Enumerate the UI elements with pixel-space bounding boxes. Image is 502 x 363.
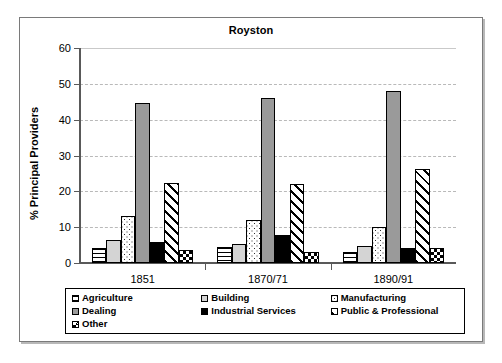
- y-tick-label: 40: [59, 114, 71, 126]
- bar: [121, 216, 136, 263]
- y-tick-label: 0: [65, 257, 71, 269]
- bar: [179, 250, 194, 263]
- bar: [92, 248, 107, 263]
- legend-swatch-icon: [331, 295, 338, 302]
- legend-item[interactable]: Manufacturing: [331, 292, 460, 304]
- y-axis-title: % Principal Providers: [28, 68, 44, 258]
- bar: [164, 183, 179, 263]
- legend-item-label: Public & Professional: [341, 305, 439, 317]
- legend-item-label: Manufacturing: [341, 292, 406, 304]
- bar: [290, 184, 305, 263]
- bar: [135, 103, 150, 263]
- legend-swatch-icon: [72, 308, 79, 315]
- x-category-label: 1851: [130, 273, 154, 285]
- x-tick-mark: [331, 263, 332, 270]
- x-category-label: 1890/91: [373, 273, 413, 285]
- y-tick-label: 20: [59, 185, 71, 197]
- bar: [372, 227, 387, 263]
- x-tick-mark: [205, 263, 206, 270]
- legend-swatch-icon: [201, 295, 208, 302]
- bar: [150, 242, 165, 264]
- x-category-label: 1870/71: [248, 273, 288, 285]
- legend-swatch-icon: [72, 321, 79, 328]
- legend-item-label: Other: [82, 318, 107, 330]
- legend-item-label: Agriculture: [82, 292, 133, 304]
- gridline: [80, 48, 456, 49]
- legend-swatch-icon: [201, 308, 208, 315]
- chart-legend: AgricultureBuildingManufacturingDealingI…: [65, 288, 465, 334]
- bar: [401, 248, 416, 263]
- bar: [415, 169, 430, 263]
- legend-swatch-icon: [331, 308, 338, 315]
- y-tick-label: 10: [59, 221, 71, 233]
- legend-swatch-icon: [72, 295, 79, 302]
- bar: [357, 246, 372, 263]
- legend-item[interactable]: Building: [201, 292, 330, 304]
- bar: [304, 252, 319, 263]
- bar: [232, 244, 247, 263]
- bar: [343, 252, 358, 263]
- gridline: [80, 84, 456, 85]
- legend-item[interactable]: Dealing: [72, 305, 201, 317]
- bar: [275, 235, 290, 263]
- legend-item[interactable]: Agriculture: [72, 292, 201, 304]
- y-axis-line: [79, 48, 81, 263]
- chart-title: Royston: [20, 24, 482, 36]
- y-tick-label: 30: [59, 150, 71, 162]
- y-tick-label: 60: [59, 42, 71, 54]
- legend-item-label: Industrial Services: [211, 305, 295, 317]
- bar: [430, 248, 445, 263]
- legend-item[interactable]: Industrial Services: [201, 305, 330, 317]
- plot-area: 0102030405060 18511870/711890/91: [80, 48, 456, 263]
- bar: [106, 240, 121, 263]
- chart-figure: Royston % Principal Providers 0102030405…: [19, 17, 483, 342]
- legend-item-label: Building: [211, 292, 249, 304]
- legend-item[interactable]: Public & Professional: [331, 305, 460, 317]
- y-tick-label: 50: [59, 78, 71, 90]
- legend-item-label: Dealing: [82, 305, 116, 317]
- bar: [246, 220, 261, 263]
- legend-grid: AgricultureBuildingManufacturingDealingI…: [72, 292, 460, 330]
- bar: [386, 91, 401, 263]
- bar: [261, 98, 276, 263]
- bar: [217, 247, 232, 263]
- legend-item[interactable]: Other: [72, 318, 201, 330]
